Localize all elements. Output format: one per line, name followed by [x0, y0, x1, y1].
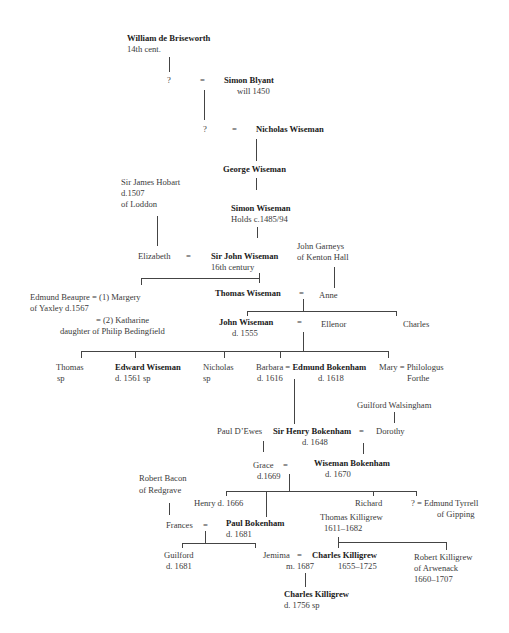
marriage-sign: =: [203, 520, 208, 531]
descent-line: [257, 227, 258, 238]
person-paul-dewes: Paul D’Ewes: [217, 426, 262, 437]
person-mary: Mary = Philologus: [379, 362, 444, 373]
descent-line: [394, 412, 395, 423]
person-note: Forthe: [407, 373, 429, 384]
person-sir-john-wiseman: Sir John Wiseman: [211, 251, 278, 262]
descent-line: [363, 443, 364, 454]
descent-line: [334, 267, 335, 288]
person-note: 1611–1682: [324, 523, 362, 534]
person-note: of Yaxley d.1567: [30, 303, 89, 314]
person-elizabeth: Elizabeth: [138, 251, 170, 262]
person-henry: Henry d. 1666: [194, 498, 243, 509]
person-dorothy: Dorothy: [376, 426, 405, 437]
descent-line: [256, 139, 257, 161]
sibling-bar: [369, 351, 388, 352]
person-grace: Grace: [253, 460, 274, 471]
descent-line: [81, 351, 82, 358]
descent-line: [289, 474, 290, 491]
person-name: Barbara: [256, 362, 283, 372]
person-note: d. 1561 sp: [115, 373, 151, 384]
person-sir-james-hobart: Sir James Hobart: [121, 177, 180, 188]
person-robert-killigrew: Robert Killigrew: [414, 552, 472, 563]
descent-line: [373, 491, 374, 496]
marriage-sign: =: [417, 498, 422, 508]
person-note: daughter of Philip Bedingfield: [60, 326, 165, 337]
sibling-bar: [226, 491, 417, 492]
descent-line: [226, 491, 227, 496]
descent-line: [303, 299, 304, 311]
descent-line: [169, 503, 170, 515]
person-john-garneys: John Garneys: [297, 241, 344, 252]
person-richard: Richard: [355, 498, 382, 509]
marriage-sign: =: [285, 362, 290, 372]
person-frances: Frances: [166, 520, 193, 531]
person-anne: Anne: [319, 290, 338, 301]
person-william-de-briseworth: William de Briseworth: [127, 33, 210, 44]
person-jemima: Jemima: [263, 550, 290, 561]
person-philologus-forthe: Philologus: [407, 362, 444, 372]
person-note: of Kenton Hall: [297, 252, 349, 263]
person-edmund-bokenham: Edmund Bokenham: [292, 362, 366, 372]
descent-line: [141, 278, 142, 285]
person-note: will 1450: [237, 86, 270, 97]
person-note: d. 1756 sp: [284, 600, 320, 611]
descent-line: [263, 441, 264, 452]
marriage-sign: =: [283, 460, 288, 471]
descent-line: [135, 351, 136, 358]
person-guilford-walsingham: Guilford Walsingham: [357, 400, 431, 411]
descent-line: [416, 491, 417, 496]
descent-line: [255, 543, 256, 548]
person-nicholas: Nicholas: [203, 362, 234, 373]
person-thomas: Thomas: [56, 362, 84, 373]
marriage-sign: =: [400, 362, 405, 372]
person-unknown: ?: [203, 124, 207, 135]
sibling-bar: [141, 278, 260, 279]
person-note: d. 1681: [166, 561, 192, 572]
person-note: sp: [57, 373, 65, 384]
person-george-wiseman: George Wiseman: [223, 164, 286, 175]
descent-line: [303, 332, 304, 351]
person-unknown: ? = Edmund Tyrrell: [411, 498, 478, 509]
person-ellenor: Ellenor: [321, 319, 346, 330]
person-note: of Loddon: [121, 199, 157, 210]
person-note: d. 1681: [226, 529, 252, 540]
marriage-margery: = (1) Margery: [92, 292, 141, 302]
person-note: of Redgrave: [139, 485, 181, 496]
marriage-katharine: = (2) Katharine: [96, 315, 149, 326]
person-note: d. 1555: [232, 328, 258, 339]
person-charles-killigrew-jr: Charles Killigrew: [284, 589, 349, 600]
descent-line: [169, 57, 170, 72]
person-note: 14th cent.: [127, 44, 161, 55]
marriage-sign: =: [359, 426, 364, 437]
descent-line: [205, 531, 206, 543]
marriage-sign: =: [299, 288, 304, 299]
person-note: sp: [203, 373, 211, 384]
person-guilford: Guilford: [164, 550, 194, 561]
person-charles-killigrew: Charles Killigrew: [312, 550, 377, 561]
person-simon-blyant: Simon Blyant: [224, 75, 274, 86]
descent-line: [388, 351, 389, 358]
descent-line: [204, 90, 205, 120]
sibling-bar: [247, 311, 396, 312]
person-edward-wiseman: Edward Wiseman: [115, 362, 181, 373]
person-note: of Arwenack: [414, 563, 458, 574]
marriage-sign: =: [186, 251, 191, 262]
person-note: of Gipping: [437, 509, 474, 520]
person-edmund-beaupre: Edmund Beaupre = (1) Margery: [30, 292, 141, 303]
descent-line: [157, 216, 158, 246]
person-nicholas-wiseman: Nicholas Wiseman: [256, 124, 324, 135]
person-robert-bacon: Robert Bacon: [139, 473, 187, 484]
sibling-bar: [338, 542, 446, 543]
person-wiseman-bokenham: Wiseman Bokenham: [314, 458, 390, 469]
marriage-sign: =: [200, 75, 205, 86]
person-simon-wiseman: Simon Wiseman: [231, 203, 291, 214]
person-note: 1655–1725: [338, 561, 377, 572]
person-note: m. 1687: [286, 561, 314, 572]
marriage-sign: =: [297, 317, 302, 328]
person-edmund-tyrrell: Edmund Tyrrell: [424, 498, 478, 508]
person-thomas-killigrew: Thomas Killigrew: [320, 512, 383, 523]
descent-line: [446, 542, 447, 550]
person-john-wiseman: John Wiseman: [219, 317, 273, 328]
person-barbara: Barbara = Edmund Bokenham: [256, 362, 366, 373]
person-unknown: ?: [167, 75, 171, 86]
